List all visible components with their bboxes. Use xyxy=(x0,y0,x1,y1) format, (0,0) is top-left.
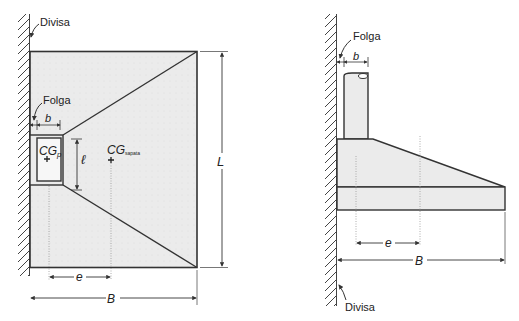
gap-label: Folga xyxy=(353,30,381,42)
pillar-elevation xyxy=(344,73,368,139)
pillar-width-label: b xyxy=(45,112,51,124)
wall-label: Divisa xyxy=(345,301,376,313)
footing-length-label: L xyxy=(217,154,224,169)
gap-label: Folga xyxy=(43,94,71,106)
pillar-cut-ellipse xyxy=(359,74,368,79)
wall-pointer-arrow xyxy=(339,285,346,300)
elevation-view: b Folga e B Divisa xyxy=(325,14,505,313)
wall-label: Divisa xyxy=(40,16,71,28)
footing-pyramid xyxy=(337,139,505,187)
footing-width-label: B xyxy=(415,254,423,268)
gap-pointer-arrow xyxy=(340,40,351,58)
boundary-wall-hatch xyxy=(325,14,336,306)
wall-pointer-arrow xyxy=(31,24,39,37)
plan-view: CGp CGsapata ℓ b Folga Divisa L xyxy=(18,14,228,306)
eccentricity-label: e xyxy=(76,270,83,284)
footing-base xyxy=(337,187,505,210)
pillar-width-label: b xyxy=(353,50,359,62)
boundary-wall-hatch xyxy=(18,14,29,276)
eccentricity-label: e xyxy=(385,236,392,250)
footing-width-label: B xyxy=(107,292,115,306)
